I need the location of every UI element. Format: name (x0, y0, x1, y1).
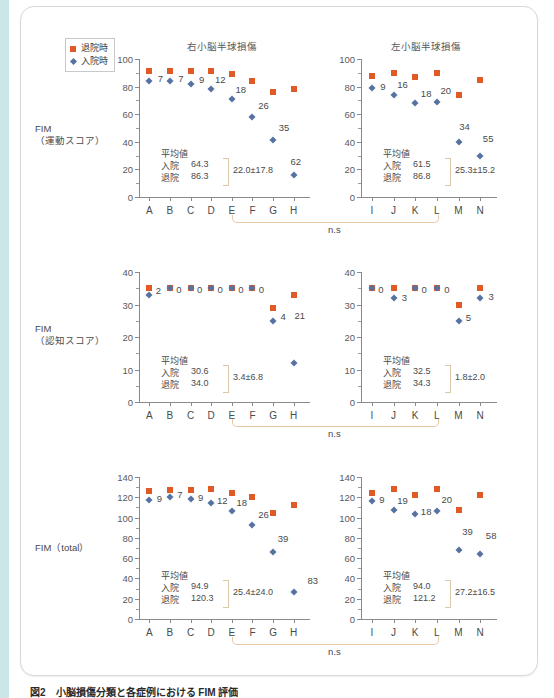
x-tick-label-C: C (187, 410, 194, 421)
x-tick (149, 197, 150, 201)
significance-bracket-row-3 (232, 637, 439, 645)
diamond-marker-icon (69, 58, 76, 65)
data-point-admission-J (390, 294, 397, 301)
y-tick-label: 20 (122, 593, 133, 604)
point-value-label-J: 16 (397, 78, 408, 89)
y-axis-line (361, 477, 362, 619)
data-point-admission-G (270, 549, 277, 556)
data-point-admission-H (290, 588, 297, 595)
y-tick-label: 0 (350, 192, 355, 203)
x-tick (149, 619, 150, 623)
row-label-cognitive: FIM （認知スコア） (35, 323, 105, 347)
y-tick-label: 60 (344, 109, 355, 120)
mean-difference-value: 25.4±24.0 (233, 587, 273, 597)
data-point-discharge-L (434, 70, 440, 76)
x-tick-label-M: M (454, 627, 462, 638)
x-axis-line (139, 402, 310, 403)
figure-card: 退院時 入院時 右小脳半球損傷020406080100ABCDEFGH77912… (20, 6, 538, 676)
data-point-discharge-D (208, 486, 214, 492)
y-minor-tick (136, 609, 139, 610)
data-point-admission-E (228, 508, 235, 515)
y-minor-tick (358, 100, 361, 101)
data-point-discharge-L (434, 486, 440, 492)
x-tick-label-A: A (146, 205, 153, 216)
data-point-admission-L (433, 98, 440, 105)
x-tick (252, 619, 253, 623)
row-label-total: FIM（total） (35, 542, 89, 554)
y-tick (135, 59, 139, 60)
data-point-admission-K (412, 510, 419, 517)
chart-motor-left-cerebellum: 左小脳半球損傷020406080100IJKLMN91618203455平均値入… (361, 59, 491, 197)
y-tick (357, 578, 361, 579)
mean-discharge-key: 退院 (161, 593, 179, 606)
x-tick (415, 619, 416, 623)
chart-total-left-cerebellum: 020406080100120140IJKLMN91918203958平均値入院… (361, 477, 491, 619)
y-tick-label: 20 (122, 164, 133, 175)
point-value-label-D: 12 (215, 74, 226, 85)
data-point-admission-M (455, 317, 462, 324)
point-value-label-A: 7 (158, 73, 163, 84)
y-tick-label: 40 (344, 136, 355, 147)
x-tick (480, 402, 481, 406)
data-point-admission-I (368, 498, 375, 505)
point-value-label-N: 3 (489, 291, 494, 302)
point-value-label-K: 18 (421, 505, 432, 516)
y-minor-tick (358, 288, 361, 289)
point-value-label-H: 62 (290, 155, 301, 166)
y-minor-tick (136, 568, 139, 569)
x-tick-label-B: B (167, 627, 174, 638)
x-tick-label-A: A (146, 410, 153, 421)
x-tick (372, 619, 373, 623)
y-tick (135, 87, 139, 88)
y-tick (135, 169, 139, 170)
chart-cognitive-left-cerebellum: 010203040IJKLMN030053平均値入院32.5退院34.31.8±… (361, 272, 491, 402)
data-point-admission-H (290, 171, 297, 178)
x-tick-label-C: C (187, 627, 194, 638)
legend-item-discharge: 退院時 (70, 42, 108, 55)
chart-title-motor-right-cerebellum: 右小脳半球損傷 (139, 39, 304, 53)
x-tick (394, 402, 395, 406)
data-point-discharge-H (291, 86, 297, 92)
data-point-admission-G (270, 137, 277, 144)
mean-admission-value: 61.5 (413, 159, 431, 169)
mean-discharge-key: 退院 (383, 593, 401, 606)
data-point-discharge-C (188, 68, 194, 74)
x-axis-line (139, 197, 310, 198)
y-tick (357, 599, 361, 600)
data-point-admission-D (208, 500, 215, 507)
data-point-discharge-H (291, 292, 297, 298)
data-point-admission-B (166, 494, 173, 501)
point-value-label-N: 58 (486, 530, 497, 541)
y-minor-tick (136, 321, 139, 322)
y-tick (357, 538, 361, 539)
mean-discharge-key: 退院 (161, 171, 179, 184)
data-point-discharge-J (391, 70, 397, 76)
point-value-label-G: 39 (278, 533, 289, 544)
y-minor-tick (358, 386, 361, 387)
data-point-admission-E (228, 95, 235, 102)
y-axis-line (361, 59, 362, 197)
data-point-admission-A (146, 497, 153, 504)
mean-difference-value: 27.2±16.5 (455, 587, 495, 597)
y-minor-tick (358, 183, 361, 184)
point-value-label-K: 0 (422, 284, 427, 295)
y-axis-line (139, 59, 140, 197)
mean-discharge-key: 退院 (161, 378, 179, 391)
point-value-label-M: 39 (462, 526, 473, 537)
y-minor-tick (136, 487, 139, 488)
data-point-discharge-D (208, 68, 214, 74)
data-point-discharge-F (249, 494, 255, 500)
square-marker-icon (70, 46, 76, 52)
significance-bracket-row-1 (232, 215, 439, 223)
x-tick (211, 402, 212, 406)
x-tick (372, 402, 373, 406)
y-minor-tick (136, 548, 139, 549)
y-tick-label: 0 (128, 192, 133, 203)
x-axis-line (361, 197, 497, 198)
x-tick (211, 619, 212, 623)
y-minor-tick (136, 73, 139, 74)
point-value-label-I: 9 (379, 494, 384, 505)
mean-admission-value: 30.6 (191, 366, 209, 376)
y-tick (135, 518, 139, 519)
data-point-admission-J (390, 91, 397, 98)
